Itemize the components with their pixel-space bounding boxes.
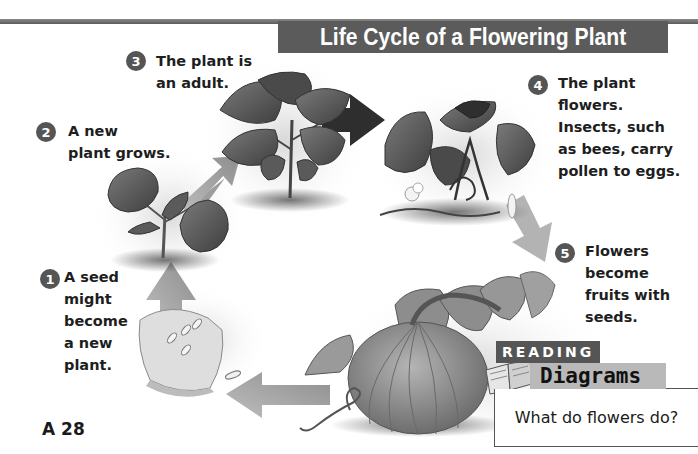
diagrams-tag: Diagrams <box>530 363 666 389</box>
step-2-badge: 2 <box>36 122 56 142</box>
step-4-badge: 4 <box>528 75 548 95</box>
step-3-badge: 3 <box>126 51 146 71</box>
reading-tag: READING <box>496 341 600 363</box>
step-3-text: The plant is an adult. <box>156 50 252 94</box>
step-1-badge: 1 <box>40 269 60 289</box>
page-number: A 28 <box>42 419 85 439</box>
reading-question: What do flowers do? <box>494 389 698 447</box>
step-5-badge: 5 <box>555 243 575 263</box>
step-1-text: A seed might become a new plant. <box>64 266 128 376</box>
step-5-text: Flowers become fruits with seeds. <box>585 240 670 328</box>
step-4-text: The plant flowers. Insects, such as bees… <box>558 72 680 182</box>
step-2-text: A new plant grows. <box>68 120 170 164</box>
